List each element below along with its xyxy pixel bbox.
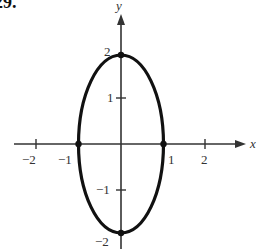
x-tick-label: −1 bbox=[58, 152, 72, 167]
x-axis-arrow-icon bbox=[235, 140, 246, 148]
y-tick-label: −2 bbox=[95, 234, 109, 249]
y-axis-arrow-icon bbox=[117, 14, 125, 25]
y-tick-label: −1 bbox=[96, 182, 110, 197]
x-tick-label: −2 bbox=[22, 152, 36, 167]
y-tick-label: 1 bbox=[107, 90, 114, 105]
x-tick-label: 1 bbox=[168, 152, 175, 167]
x-tick-label: 2 bbox=[201, 152, 208, 167]
ellipse-graph: 29. x y −2 −1 1 2 2 1 −1 −2 bbox=[0, 0, 259, 249]
x-axis-label: x bbox=[249, 136, 256, 151]
y-axis-label: y bbox=[114, 0, 122, 13]
problem-label: 29. bbox=[0, 0, 17, 12]
